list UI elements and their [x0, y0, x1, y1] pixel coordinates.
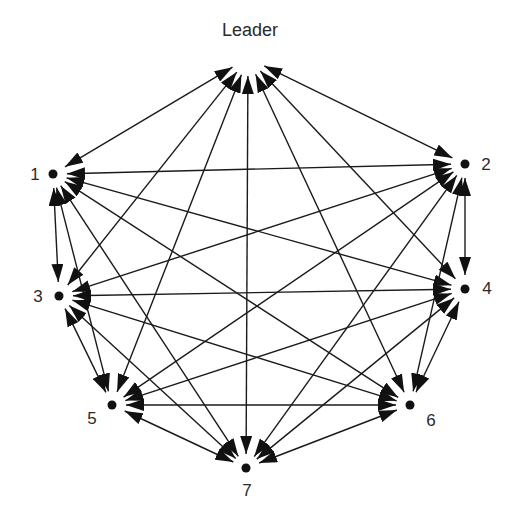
- nodes-layer: Leader1234567: [30, 20, 491, 500]
- edge-6-7: [259, 410, 397, 463]
- edge-2-3: [72, 168, 451, 291]
- node-label: 6: [426, 411, 435, 430]
- node-leader: Leader: [222, 20, 278, 40]
- node-5: 5: [87, 401, 116, 429]
- edge-l-1: [65, 67, 233, 167]
- node-label: Leader: [222, 20, 278, 40]
- edge-2-6: [413, 178, 462, 392]
- node-label: 3: [33, 287, 42, 306]
- edge-2-5: [124, 172, 454, 397]
- edge-l-6: [256, 74, 405, 392]
- node-4: 4: [461, 279, 492, 298]
- edge-5-7: [125, 411, 234, 462]
- node-dot-icon: [49, 170, 58, 179]
- edge-3-6: [72, 300, 396, 401]
- edge-l-2: [264, 66, 452, 158]
- edge-l-4: [260, 71, 455, 279]
- node-dot-icon: [108, 401, 117, 410]
- edge-l-7: [246, 76, 248, 454]
- node-label: 1: [30, 165, 39, 184]
- node-label: 5: [87, 409, 96, 428]
- node-1: 1: [30, 165, 57, 184]
- node-dot-icon: [461, 160, 470, 169]
- communication-network-diagram: Leader1234567: [0, 0, 518, 522]
- node-6: 6: [406, 401, 436, 431]
- node-dot-icon: [406, 401, 415, 410]
- edge-1-2: [67, 164, 451, 173]
- node-label: 4: [482, 279, 491, 298]
- node-dot-icon: [55, 292, 64, 301]
- edge-4-5: [125, 293, 451, 400]
- node-dot-icon: [242, 464, 251, 473]
- edge-l-5: [117, 75, 241, 392]
- node-7: 7: [242, 464, 252, 501]
- node-label: 7: [242, 481, 251, 500]
- edge-1-3: [54, 188, 59, 282]
- node-2: 2: [461, 155, 491, 174]
- edge-3-7: [69, 306, 235, 459]
- edge-4-7: [257, 298, 454, 459]
- edge-4-6: [416, 302, 459, 393]
- node-label: 2: [481, 155, 490, 174]
- edge-l-3: [68, 72, 237, 285]
- node-3: 3: [33, 287, 63, 306]
- node-dot-icon: [461, 285, 470, 294]
